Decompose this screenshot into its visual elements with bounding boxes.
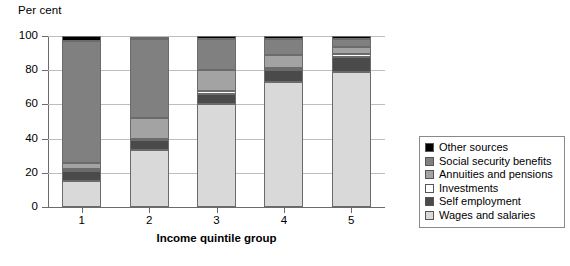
y-tick-label: 60	[0, 97, 38, 109]
y-tick-mark	[42, 207, 48, 208]
bar-segment	[264, 68, 303, 71]
bar-segment	[130, 140, 169, 149]
bar-segment	[62, 171, 101, 181]
legend-label: Investments	[439, 182, 498, 196]
bar-segment	[264, 39, 303, 54]
x-tick-label: 4	[264, 214, 304, 226]
bar-segment	[264, 36, 303, 39]
legend-swatch-icon	[425, 197, 434, 206]
legend-swatch-icon	[425, 184, 434, 193]
legend-label: Annuities and pensions	[439, 168, 553, 182]
bar-segment	[264, 70, 303, 82]
legend-label: Self employment	[439, 195, 521, 209]
bar-segment	[130, 39, 169, 118]
bar-stack	[62, 36, 101, 207]
bar-segment	[130, 138, 169, 140]
x-tick-mark	[284, 208, 285, 213]
bar-segment	[332, 57, 371, 72]
bar-segment	[332, 54, 371, 57]
y-tick-label: 0	[0, 200, 38, 212]
x-tick-mark	[82, 208, 83, 213]
x-tick-label: 3	[197, 214, 237, 226]
bar-stack	[332, 36, 371, 207]
bar-stack	[197, 36, 236, 207]
bar-segment	[264, 82, 303, 207]
bar-segment	[197, 36, 236, 39]
plot-area	[48, 36, 385, 207]
y-tick-label: 40	[0, 132, 38, 144]
bar-segment	[130, 118, 169, 139]
x-tick-label: 2	[129, 214, 169, 226]
bar-segment	[197, 70, 236, 91]
bar-segment	[197, 104, 236, 207]
legend-item: Other sources	[425, 141, 559, 155]
bar-segment	[197, 94, 236, 104]
legend-swatch-icon	[425, 143, 434, 152]
stacked-bar-chart-figure: Per cent 020406080100 12345 Income quint…	[0, 0, 570, 266]
bar-segment	[197, 39, 236, 70]
x-tick-mark	[149, 208, 150, 213]
legend-swatch-icon	[425, 170, 434, 179]
x-tick-label: 5	[331, 214, 371, 226]
chart-legend: Other sourcesSocial security benefitsAnn…	[419, 136, 565, 228]
bar-segment	[332, 72, 371, 207]
legend-swatch-icon	[425, 211, 434, 220]
bar-segment	[264, 55, 303, 68]
legend-label: Social security benefits	[439, 155, 552, 169]
bar-segment	[62, 36, 101, 41]
bar-segment	[62, 169, 101, 172]
bar-segment	[62, 163, 101, 168]
bar-stack	[264, 36, 303, 207]
y-tick-label: 80	[0, 63, 38, 75]
x-tick-label: 1	[62, 214, 102, 226]
legend-item: Wages and salaries	[425, 209, 559, 223]
bar-segment	[332, 39, 371, 47]
legend-item: Annuities and pensions	[425, 168, 559, 182]
y-tick-label: 20	[0, 166, 38, 178]
x-tick-mark	[351, 208, 352, 213]
bar-segment	[332, 36, 371, 39]
bar-stack	[130, 36, 169, 207]
x-tick-mark	[217, 208, 218, 213]
y-axis-caption: Per cent	[18, 4, 62, 16]
legend-label: Wages and salaries	[439, 209, 535, 223]
legend-item: Investments	[425, 182, 559, 196]
x-axis-title: Income quintile group	[48, 232, 385, 244]
legend-item: Social security benefits	[425, 155, 559, 169]
legend-swatch-icon	[425, 157, 434, 166]
bar-segment	[332, 47, 371, 54]
y-tick-label: 100	[0, 29, 38, 41]
bar-segment	[130, 150, 169, 207]
bar-segment	[62, 181, 101, 207]
bar-segment	[197, 91, 236, 94]
bar-segment	[130, 37, 169, 40]
legend-label: Other sources	[439, 141, 508, 155]
bar-segment	[62, 41, 101, 163]
legend-item: Self employment	[425, 195, 559, 209]
